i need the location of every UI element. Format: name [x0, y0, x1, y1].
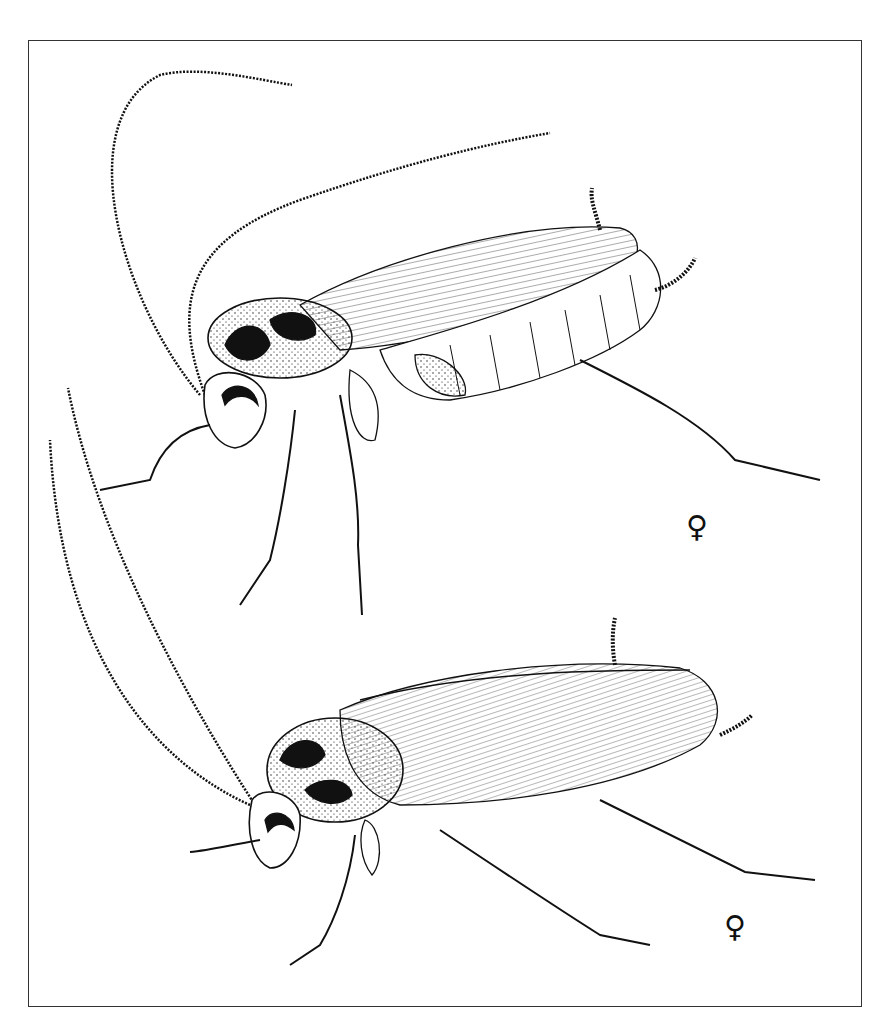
- leg-femur: [361, 820, 379, 875]
- cercus: [720, 715, 752, 735]
- female-symbol: ♀: [724, 912, 746, 942]
- upper-cockroach: [100, 72, 820, 615]
- leg: [290, 835, 355, 965]
- head: [204, 373, 266, 448]
- leg: [600, 800, 815, 880]
- leg: [100, 425, 210, 490]
- cockroach-illustration: [0, 0, 884, 1030]
- head: [249, 792, 300, 868]
- lower-cockroach: [50, 388, 815, 965]
- leg: [580, 360, 820, 480]
- leg-femur: [349, 370, 378, 441]
- female-symbol: ♀: [686, 512, 708, 542]
- cercus: [613, 618, 615, 665]
- cercus: [592, 188, 600, 230]
- leg: [440, 830, 650, 945]
- antenna: [50, 440, 250, 805]
- leg: [190, 840, 260, 852]
